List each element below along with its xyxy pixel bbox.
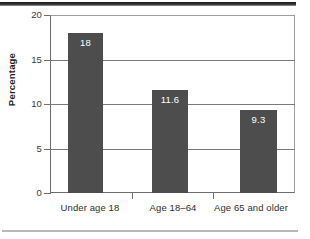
y-tick-label-5: 5 — [12, 144, 42, 154]
y-tick-label-10: 10 — [12, 99, 42, 109]
x-category-label-under-age-18: Under age 18 — [44, 202, 136, 214]
bar-under-age-18[interactable]: 18 — [68, 33, 103, 193]
bottom-divider-rule — [2, 230, 298, 232]
bar-value-label-under-age-18: 18 — [68, 37, 103, 48]
x-category-label-age-18-64: Age 18–64 — [128, 202, 218, 214]
y-tick-mark-0 — [44, 193, 51, 194]
bar-age-65-and-older[interactable]: 9.3 — [240, 110, 277, 193]
y-tick-label-0: 0 — [12, 188, 42, 198]
y-axis-title: Percentage — [6, 35, 17, 125]
plot-area: 18 11.6 9.3 — [50, 15, 295, 193]
y-tick-label-20: 20 — [12, 10, 42, 20]
y-tick-label-15: 15 — [12, 55, 42, 65]
x-tick-mark-1 — [132, 193, 133, 199]
x-tick-mark-2 — [213, 193, 214, 199]
bar-value-label-age-18-64: 11.6 — [152, 94, 188, 105]
top-divider-rule — [0, 2, 296, 6]
x-category-label-age-65-and-older: Age 65 and older — [213, 202, 289, 214]
bar-age-18-64[interactable]: 11.6 — [152, 90, 188, 193]
bar-value-label-age-65-and-older: 9.3 — [240, 114, 277, 125]
bar-chart-figure: Percentage 20 15 10 5 0 18 11.6 9.3 Unde… — [0, 0, 310, 239]
